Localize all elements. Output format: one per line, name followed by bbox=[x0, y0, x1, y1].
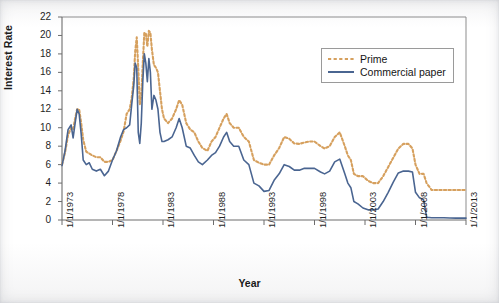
legend-label: Prime bbox=[360, 53, 387, 65]
y-tick-label: 16 bbox=[25, 67, 51, 77]
plot-area bbox=[0, 0, 499, 303]
y-tick-label: 6 bbox=[25, 160, 51, 170]
y-axis-title: Interest Rate bbox=[2, 0, 14, 90]
y-tick-label: 22 bbox=[25, 12, 51, 22]
x-tick-label: 1/1/1983 bbox=[167, 192, 176, 228]
y-tick-label: 10 bbox=[25, 123, 51, 133]
y-tick-label: 4 bbox=[25, 178, 51, 188]
x-tick-label: 1/1/1988 bbox=[218, 192, 227, 228]
x-tick-label: 1/1/2003 bbox=[369, 192, 378, 228]
x-tick-label: 1/1/1993 bbox=[268, 192, 277, 228]
legend-label: Commercial paper bbox=[360, 66, 446, 78]
y-tick-label: 12 bbox=[25, 104, 51, 114]
x-tick-label: 1/1/2013 bbox=[470, 192, 479, 228]
legend-swatch-icon bbox=[327, 54, 355, 63]
chart-page: Interest Rate Year 0246810121416182022 1… bbox=[0, 0, 499, 303]
legend-swatch-icon bbox=[327, 67, 355, 76]
y-tick-label: 8 bbox=[25, 141, 51, 151]
chart-legend: PrimeCommercial paper bbox=[321, 48, 454, 83]
y-tick-label: 18 bbox=[25, 49, 51, 59]
x-tick-label: 1/1/1998 bbox=[319, 192, 328, 228]
x-tick-label: 1/1/1978 bbox=[117, 192, 126, 228]
interest-rate-line-chart: Interest Rate Year 0246810121416182022 1… bbox=[0, 0, 499, 303]
x-tick-label: 1/1/1973 bbox=[66, 192, 75, 228]
y-tick-label: 0 bbox=[25, 215, 51, 225]
x-tick-label: 1/1/2008 bbox=[420, 192, 429, 228]
legend-item-prime[interactable]: Prime bbox=[327, 52, 446, 65]
y-tick-label: 20 bbox=[25, 30, 51, 40]
y-tick-label: 2 bbox=[25, 197, 51, 207]
legend-item-commercial-paper[interactable]: Commercial paper bbox=[327, 65, 446, 78]
x-axis-title: Year bbox=[0, 277, 499, 289]
y-tick-label: 14 bbox=[25, 86, 51, 96]
